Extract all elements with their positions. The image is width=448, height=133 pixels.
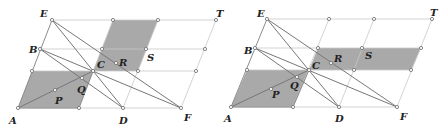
point-r bbox=[114, 61, 117, 64]
figure-left: ADFEBCPQRST bbox=[8, 8, 225, 126]
point-g6 bbox=[111, 18, 114, 21]
point-g4 bbox=[100, 47, 103, 50]
point-label-e: E bbox=[39, 8, 48, 19]
point-q bbox=[80, 76, 83, 79]
geometry-diagram: ADFEBCPQRST ADFEBCPQRST bbox=[0, 0, 448, 133]
point-d bbox=[121, 106, 124, 109]
point-label-b: B bbox=[243, 45, 252, 56]
point-b bbox=[38, 47, 41, 50]
point-m1 bbox=[291, 105, 294, 108]
point-e bbox=[50, 18, 53, 21]
point-g7 bbox=[372, 17, 375, 20]
point-label-q: Q bbox=[77, 84, 86, 95]
point-label-d: D bbox=[118, 115, 128, 126]
point-f bbox=[395, 105, 398, 108]
point-label-r: R bbox=[118, 57, 127, 68]
point-label-a: A bbox=[8, 115, 17, 126]
point-g4 bbox=[316, 46, 319, 49]
point-label-f: F bbox=[399, 111, 408, 122]
point-f bbox=[179, 106, 182, 109]
point-label-f: F bbox=[183, 112, 192, 123]
point-g3 bbox=[194, 69, 197, 72]
point-g3 bbox=[409, 68, 412, 71]
figure-right: ADFEBCPQRST bbox=[223, 7, 439, 124]
point-d bbox=[337, 105, 340, 108]
point-label-b: B bbox=[28, 44, 37, 55]
point-label-e: E bbox=[256, 8, 265, 19]
point-b bbox=[253, 46, 256, 49]
point-g2 bbox=[136, 69, 139, 72]
point-q bbox=[295, 75, 298, 78]
point-g5 bbox=[203, 47, 206, 50]
point-s bbox=[360, 46, 363, 49]
point-e bbox=[265, 17, 268, 20]
point-g5 bbox=[419, 46, 422, 49]
point-label-r: R bbox=[333, 53, 342, 64]
point-label-s: S bbox=[147, 52, 154, 63]
point-g2 bbox=[352, 68, 355, 71]
point-label-s: S bbox=[365, 50, 372, 61]
point-m1 bbox=[77, 106, 80, 109]
point-label-a: A bbox=[223, 113, 232, 124]
point-label-d: D bbox=[334, 113, 344, 124]
point-label-c: C bbox=[312, 60, 320, 71]
point-s bbox=[144, 47, 147, 50]
point-g7 bbox=[156, 18, 159, 21]
point-c bbox=[307, 68, 310, 71]
point-p bbox=[53, 88, 56, 91]
point-c bbox=[91, 69, 94, 72]
point-label-t: T bbox=[216, 8, 225, 19]
point-g6 bbox=[327, 17, 330, 20]
point-g1 bbox=[245, 68, 248, 71]
point-r bbox=[329, 61, 332, 64]
point-label-q: Q bbox=[290, 80, 299, 91]
point-label-c: C bbox=[97, 59, 105, 70]
grid-line bbox=[181, 20, 216, 108]
point-label-p: P bbox=[271, 89, 280, 100]
point-a bbox=[229, 105, 232, 108]
point-label-p: P bbox=[54, 95, 63, 106]
point-label-t: T bbox=[430, 7, 439, 18]
point-a bbox=[16, 106, 19, 109]
point-g1 bbox=[30, 69, 33, 72]
